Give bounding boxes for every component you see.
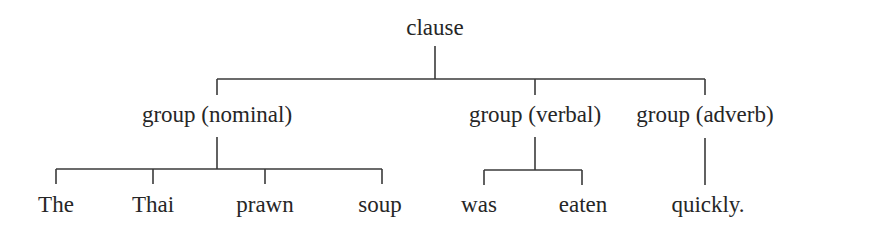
word-was: was <box>461 192 497 217</box>
group-node-adverb: group (adverb) <box>636 102 773 127</box>
group-node-nominal: group (nominal) <box>142 102 292 127</box>
word-quickly: quickly. <box>671 192 744 217</box>
root-branches <box>217 46 705 95</box>
nominal-branches <box>56 137 382 184</box>
word-thai: Thai <box>132 192 174 217</box>
group-node-verbal: group (verbal) <box>469 102 601 127</box>
word-the: The <box>38 192 74 217</box>
word-soup: soup <box>358 192 401 217</box>
verbal-branches <box>484 137 582 185</box>
word-eaten: eaten <box>559 192 608 217</box>
tree-svg: clause group (nominal) group (verbal) gr… <box>0 0 869 228</box>
word-prawn: prawn <box>236 192 294 217</box>
clause-tree-diagram: clause group (nominal) group (verbal) gr… <box>0 0 869 228</box>
root-node-clause: clause <box>406 15 463 40</box>
